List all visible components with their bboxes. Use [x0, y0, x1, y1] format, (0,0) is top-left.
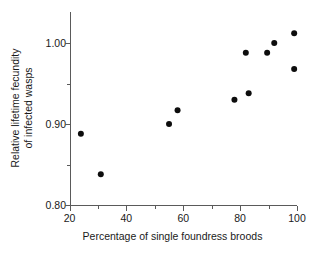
data-point [166, 121, 172, 127]
data-point [291, 66, 297, 72]
data-point [291, 30, 297, 36]
scatter-plot-figure: Relative lifetime fecundity of infected … [0, 0, 310, 254]
data-points [78, 30, 297, 177]
data-point [98, 171, 104, 177]
x-axis-title: Percentage of single foundress broods [40, 230, 305, 242]
data-point [231, 97, 237, 103]
data-point [175, 107, 181, 113]
axes [65, 12, 298, 211]
plot-area [0, 0, 310, 254]
data-point [243, 50, 249, 56]
data-point [246, 90, 252, 96]
data-point [271, 40, 277, 46]
data-point [78, 131, 84, 137]
data-point [264, 50, 270, 56]
